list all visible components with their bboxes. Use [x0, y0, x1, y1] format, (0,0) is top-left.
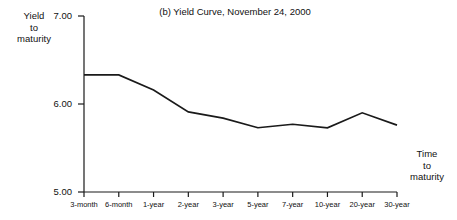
x-tick-marks	[84, 192, 397, 197]
plot-area	[0, 0, 457, 220]
yield-curve-chart: (b) Yield Curve, November 24, 2000 Yield…	[0, 0, 457, 220]
y-tick-marks	[78, 16, 84, 192]
yield-curve-series	[84, 75, 397, 128]
